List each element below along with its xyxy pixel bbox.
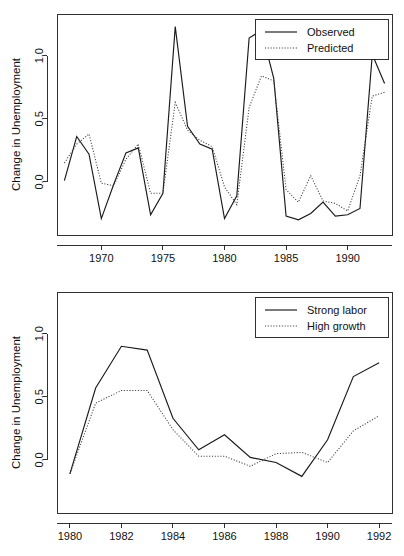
y-tick-label: 1.0	[33, 48, 45, 63]
legend-label: Observed	[307, 26, 355, 38]
x-tick-label: 1982	[109, 530, 133, 542]
legend-label: Predicted	[307, 42, 353, 54]
x-tick-label: 1985	[274, 252, 298, 264]
series-line-strong-labor	[70, 346, 379, 476]
series-line-high-growth	[70, 391, 379, 474]
chart-observed-vs-predicted: 197019751980198519900.00.51.0Change in U…	[0, 0, 404, 278]
x-tick-label: 1980	[58, 530, 82, 542]
legend-label: High growth	[307, 320, 366, 332]
y-tick-label: 0.0	[33, 174, 45, 189]
y-tick-label: 0.5	[33, 111, 45, 126]
x-tick-label: 1986	[212, 530, 236, 542]
chart-scenario-projections: 19801982198419861988199019920.00.51.0Cha…	[0, 278, 404, 556]
plot-scenario-projections: 19801982198419861988199019920.00.51.0Cha…	[0, 278, 404, 556]
x-tick-label: 1970	[89, 252, 113, 264]
x-tick-label: 1990	[315, 530, 339, 542]
x-tick-label: 1988	[264, 530, 288, 542]
x-tick-label: 1984	[161, 530, 185, 542]
y-axis-title: Change in Unemployment	[10, 335, 22, 469]
y-tick-label: 1.0	[33, 326, 45, 341]
plot-observed-vs-predicted: 197019751980198519900.00.51.0Change in U…	[0, 0, 404, 278]
y-tick-label: 0.5	[33, 389, 45, 404]
series-line-predicted	[64, 76, 384, 211]
x-tick-label: 1992	[367, 530, 391, 542]
y-tick-label: 0.0	[33, 452, 45, 467]
y-axis-title: Change in Unemployment	[10, 57, 22, 191]
legend-label: Strong labor	[307, 304, 367, 316]
x-tick-label: 1975	[151, 252, 175, 264]
x-tick-label: 1980	[212, 252, 236, 264]
x-tick-label: 1990	[335, 252, 359, 264]
